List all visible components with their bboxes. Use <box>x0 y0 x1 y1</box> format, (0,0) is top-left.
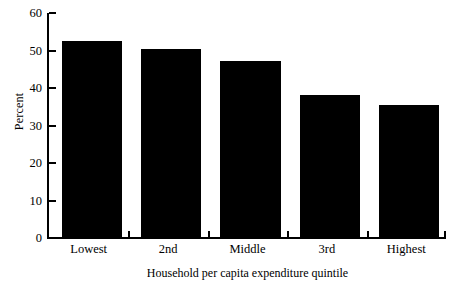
y-axis-tick-label: 60 <box>16 7 42 20</box>
x-axis-tick-label: 2nd <box>128 243 207 257</box>
bar <box>220 61 280 238</box>
x-axis-tick-label: Middle <box>208 243 287 257</box>
bar <box>141 49 201 238</box>
y-axis-tick-label: 20 <box>16 157 42 170</box>
bar-chart: Percent 0102030405060 Lowest2ndMiddle3rd… <box>0 0 458 290</box>
plot-area <box>49 13 446 238</box>
bar <box>62 41 122 238</box>
y-axis-tick-label: 0 <box>16 232 42 245</box>
y-axis-tick-label: 10 <box>16 195 42 208</box>
y-axis-tick-labels: 0102030405060 <box>16 0 42 290</box>
bar <box>379 105 439 238</box>
y-axis-tick-label: 30 <box>16 120 42 133</box>
x-axis-tick-label: Lowest <box>49 243 128 257</box>
y-axis-tick-label: 40 <box>16 82 42 95</box>
x-axis-title: Household per capita expenditure quintil… <box>49 266 446 281</box>
bar <box>300 95 360 238</box>
x-axis-tick-label: 3rd <box>287 243 366 257</box>
y-axis-tick-label: 50 <box>16 45 42 58</box>
x-axis-tick-labels: Lowest2ndMiddle3rdHighest <box>49 243 446 263</box>
x-axis-tick-label: Highest <box>367 243 446 257</box>
